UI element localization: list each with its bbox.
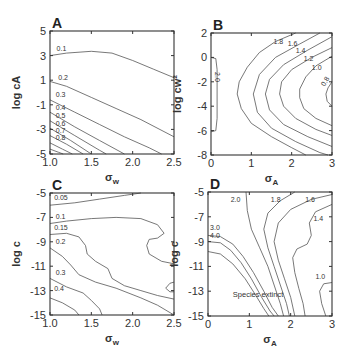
y-tick-label: -15 xyxy=(188,310,204,322)
x-axis-label: σA xyxy=(263,333,277,348)
y-tick-label: -5 xyxy=(194,186,204,198)
contour-label: 0.6 xyxy=(56,120,66,127)
contour-label: 0.3 xyxy=(56,269,66,276)
panel-letter: B xyxy=(213,17,223,33)
plot-frame xyxy=(50,31,174,154)
contour-label: 0.3 xyxy=(56,91,66,98)
y-tick-label: 2 xyxy=(201,27,207,39)
x-tick-label: 2.0 xyxy=(125,156,140,168)
x-tick-label: 0 xyxy=(208,157,214,169)
contour-label: 2.0 xyxy=(231,196,241,203)
y-tick-label: -8 xyxy=(197,149,207,161)
contour-line xyxy=(293,204,332,316)
y-tick-label: -9 xyxy=(194,236,204,248)
y-tick-label: -1 xyxy=(36,99,46,111)
panel-letter: A xyxy=(52,15,62,31)
contour-label: 1.2 xyxy=(304,55,314,62)
contour-label: 0.4 xyxy=(56,104,66,111)
y-tick-label: -3 xyxy=(36,123,46,135)
contour-label: 0.7 xyxy=(56,127,66,134)
y-tick-label: 1 xyxy=(40,74,46,86)
x-tick-label: 2 xyxy=(289,157,295,169)
y-tick-label: -7 xyxy=(36,211,46,223)
y-tick-label: -4 xyxy=(197,100,207,112)
contour-label: 0.05 xyxy=(54,194,68,201)
contour-label: 1.0 xyxy=(312,64,322,71)
y-tick-label: -13 xyxy=(188,285,204,297)
contour-line xyxy=(326,82,332,106)
y-tick-label: -5 xyxy=(36,148,46,160)
x-axis-label: σw xyxy=(105,332,120,347)
x-tick-label: 1.5 xyxy=(84,317,99,329)
x-tick-label: 2.0 xyxy=(125,317,140,329)
x-tick-label: 3 xyxy=(329,318,335,330)
contour-line xyxy=(50,51,174,77)
panel-letter: D xyxy=(210,176,220,192)
y-axis-label: log cw² xyxy=(171,75,183,113)
y-tick-label: -9 xyxy=(36,236,46,248)
contour-line xyxy=(211,57,217,131)
figure-canvas: 0.10.20.30.40.50.60.70.81.01.52.02.5531-… xyxy=(0,0,356,357)
y-tick-label: -11 xyxy=(189,260,204,272)
panel-a: 0.10.20.30.40.50.60.70.81.01.52.02.5531-… xyxy=(10,15,182,186)
contour-label: 1.8 xyxy=(271,196,281,203)
contour-label: 1.0 xyxy=(315,273,325,280)
contour-label: 0.2 xyxy=(56,238,66,245)
y-tick-label: -13 xyxy=(30,285,46,297)
contour-label: 0.5 xyxy=(56,112,66,119)
contour-label: 0.8 xyxy=(320,75,331,87)
contour-label: 1.6 xyxy=(305,196,315,203)
y-tick-label: -15 xyxy=(30,309,46,321)
contour-line xyxy=(50,100,162,154)
y-tick-label: -6 xyxy=(197,125,207,137)
panel-d: 2.01.81.61.41.03.04.00123-5-7-9-11-13-15… xyxy=(168,176,335,348)
contour-line xyxy=(208,242,274,316)
x-tick-label: 1 xyxy=(248,157,254,169)
contour-label: 1.4 xyxy=(313,215,323,222)
contour-label: 3.0 xyxy=(210,224,220,231)
y-tick-label: 3 xyxy=(40,50,46,62)
contour-label: 0.15 xyxy=(54,224,68,231)
plot-frame xyxy=(50,193,174,315)
species-extinct-annotation: Species extinct xyxy=(233,290,284,299)
x-tick-label: 2.5 xyxy=(166,317,181,329)
contour-label: 2.0 xyxy=(214,72,221,82)
panel-letter: C xyxy=(52,177,62,193)
contour-label: 0.1 xyxy=(57,45,67,52)
x-tick-label: 2 xyxy=(288,318,294,330)
contour-line xyxy=(50,298,79,315)
y-tick-label: -7 xyxy=(194,211,204,223)
y-tick-label: -2 xyxy=(197,76,207,88)
y-tick-label: 5 xyxy=(40,25,46,37)
y-tick-label: -11 xyxy=(31,260,46,272)
contour-line xyxy=(253,33,328,155)
x-tick-label: 1.5 xyxy=(84,156,99,168)
contour-label: 1.8 xyxy=(274,38,284,45)
contour-label: 0.4 xyxy=(54,285,64,292)
panel-c: 0.050.10.150.20.30.41.01.52.02.5-5-7-9-1… xyxy=(10,177,182,347)
x-tick-label: 3 xyxy=(329,157,335,169)
x-axis-label: σA xyxy=(265,172,279,187)
x-tick-label: 2.5 xyxy=(166,156,181,168)
y-tick-label: 0 xyxy=(201,51,207,63)
contour-line xyxy=(50,233,174,299)
y-axis-label: log cA xyxy=(10,76,22,110)
panel-b: 2.01.81.61.41.21.00.8012320-2-4-6-8BσAlo… xyxy=(171,17,335,187)
contour-line xyxy=(50,149,63,154)
x-tick-label: 1 xyxy=(246,318,252,330)
y-axis-label: log c xyxy=(168,241,180,267)
y-axis-label: log c xyxy=(10,241,22,267)
contour-line xyxy=(320,283,332,317)
contour-label: 0.8 xyxy=(56,134,66,141)
contour-line xyxy=(50,217,174,263)
y-tick-label: -5 xyxy=(36,187,46,199)
contour-label: 4.0 xyxy=(210,232,220,239)
contour-label: 1.4 xyxy=(296,47,306,54)
contour-label: 0.1 xyxy=(56,213,66,220)
contour-label: 0.2 xyxy=(58,74,68,81)
contour-line xyxy=(50,143,72,154)
x-axis-label: σw xyxy=(105,171,120,186)
x-tick-label: 0 xyxy=(205,318,211,330)
